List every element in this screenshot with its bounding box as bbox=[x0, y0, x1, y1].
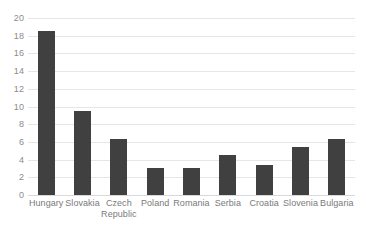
bar bbox=[256, 165, 273, 195]
bar bbox=[147, 168, 164, 195]
y-axis-tick-label: 8 bbox=[0, 120, 24, 129]
y-axis: 02468101214161820 bbox=[0, 18, 24, 195]
y-axis-tick-label: 20 bbox=[0, 14, 24, 23]
bar bbox=[74, 111, 91, 195]
y-axis-tick-label: 10 bbox=[0, 102, 24, 111]
bar bbox=[183, 168, 200, 195]
x-axis-tick-label: Bulgaria bbox=[315, 198, 359, 209]
y-axis-tick-label: 14 bbox=[0, 67, 24, 76]
bar bbox=[110, 139, 127, 195]
bar bbox=[219, 155, 236, 195]
y-axis-tick-label: 4 bbox=[0, 155, 24, 164]
y-axis-tick-label: 12 bbox=[0, 84, 24, 93]
bar bbox=[292, 147, 309, 195]
y-axis-tick-label: 0 bbox=[0, 191, 24, 200]
bar-chart: 02468101214161820 HungarySlovakiaCzech R… bbox=[0, 0, 366, 232]
bar bbox=[38, 31, 55, 195]
bar bbox=[328, 139, 345, 195]
gridline bbox=[28, 195, 355, 196]
bars-layer bbox=[28, 18, 355, 195]
y-axis-tick-label: 2 bbox=[0, 173, 24, 182]
plot-area bbox=[28, 18, 355, 195]
y-axis-tick-label: 6 bbox=[0, 137, 24, 146]
y-axis-tick-label: 18 bbox=[0, 31, 24, 40]
x-axis: HungarySlovakiaCzech RepublicPolandRoman… bbox=[28, 198, 355, 232]
y-axis-tick-label: 16 bbox=[0, 49, 24, 58]
